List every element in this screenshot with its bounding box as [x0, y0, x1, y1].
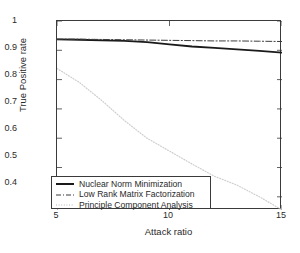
y-axis-title-wrapper: True Positive rate	[12, 10, 30, 140]
legend-item-label: Nuclear Norm Minimization	[79, 180, 182, 189]
legend: Nuclear Norm Minimization Low Rank Matri…	[51, 176, 211, 209]
x-tick-label: 15	[261, 211, 300, 220]
legend-item-label: Principle Component Analysis	[79, 201, 193, 210]
x-tick-label: 5	[36, 211, 76, 220]
x-axis-title: Attack ratio	[56, 226, 281, 237]
x-tick-label: 10	[148, 211, 188, 220]
legend-swatch-solid-icon	[55, 179, 75, 189]
legend-item: Low Rank Matrix Factorization	[55, 190, 210, 200]
y-tick-label: 0.4	[0, 178, 17, 187]
y-axis-title: True Positive rate	[17, 38, 28, 112]
legend-item-label: Low Rank Matrix Factorization	[79, 190, 195, 199]
y-tick-label: 0.5	[0, 151, 17, 160]
legend-item: Principle Component Analysis	[55, 200, 210, 210]
legend-swatch-dotted-icon	[55, 200, 75, 210]
legend-swatch-dashdot-icon	[55, 190, 75, 200]
legend-item: Nuclear Norm Minimization	[55, 179, 210, 189]
figure: 1 0.9 0.8 0.7 0.6 0.5 0.4 5 10 15 Attack…	[0, 0, 300, 253]
